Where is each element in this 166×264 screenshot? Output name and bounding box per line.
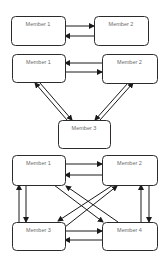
member-label: Member 1 [26,160,51,166]
member-label: Member 3 [26,227,51,233]
member-label: Member 4 [117,227,142,233]
node-m2: Member 2 [103,156,158,186]
node-m4: Member 4 [103,223,158,251]
node-m1: Member 1 [13,156,66,186]
arrow-m3-to-m1 [35,83,67,120]
arrow-m1-to-m3 [40,83,72,120]
member-label: Member 3 [72,125,97,131]
arrow-m2-to-m3 [95,83,128,120]
diagram-two-member: Member 1Member 2 [12,17,149,46]
arrow-m2-to-m3 [58,185,113,221]
arrow-m3-to-m2 [100,83,133,120]
member-label: Member 1 [26,59,51,65]
member-label: Member 1 [26,21,51,27]
member-label: Member 2 [109,21,134,27]
arrow-m3-to-m2 [65,186,117,227]
node-m2: Member 2 [103,55,158,84]
diagram-canvas: Member 1Member 2Member 1Member 2Member 3… [0,0,166,264]
diagram-three-member: Member 1Member 2Member 3 [13,55,158,149]
diagram-four-member: Member 1Member 2Member 3Member 4 [13,156,158,251]
node-m3: Member 3 [59,121,111,149]
node-m1: Member 1 [12,17,66,46]
node-m3: Member 3 [13,223,66,251]
member-label: Member 2 [117,160,142,166]
node-m2: Member 2 [95,17,149,46]
member-label: Member 2 [117,59,142,65]
node-m1: Member 1 [13,55,66,83]
